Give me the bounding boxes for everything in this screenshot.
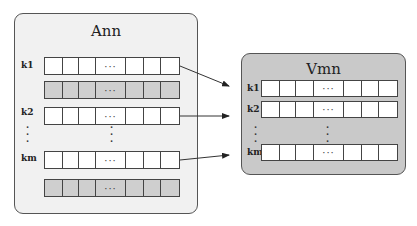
arrow-km xyxy=(180,155,229,160)
arrow-k1 xyxy=(180,66,229,86)
mapping-arrows xyxy=(0,0,417,226)
